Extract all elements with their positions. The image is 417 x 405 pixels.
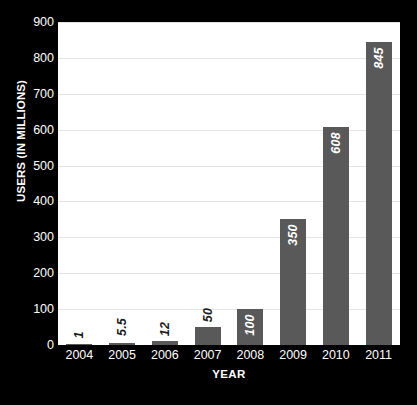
x-axis-tick-label: 2006	[144, 347, 187, 363]
x-axis-tick-label: 2004	[58, 347, 101, 363]
bar-slot: 100	[229, 22, 272, 345]
y-axis-tick-label: 300	[8, 231, 54, 243]
bar-value-label: 350	[286, 224, 300, 245]
x-axis-tick-label: 2008	[229, 347, 272, 363]
bar-slot: 845	[357, 22, 400, 345]
bar-slot: 50	[186, 22, 229, 345]
x-axis-title: YEAR	[58, 368, 400, 380]
plot-area: 15.51250100350608845	[58, 22, 400, 345]
y-axis-tick-label: 900	[8, 16, 54, 28]
x-axis-tick-label: 2007	[186, 347, 229, 363]
bar-slot: 12	[144, 22, 187, 345]
y-axis-tick-label: 100	[8, 303, 54, 315]
bar-value-label: 5.5	[115, 318, 129, 336]
bar-value-label: 1	[72, 331, 86, 338]
bars-layer: 15.51250100350608845	[58, 22, 400, 345]
x-axis-tick-label: 2010	[315, 347, 358, 363]
bar[interactable]	[109, 343, 135, 345]
x-axis-tick-label: 2005	[101, 347, 144, 363]
y-axis-tick-label: 0	[8, 339, 54, 351]
bar[interactable]	[195, 327, 221, 345]
bar-slot: 608	[315, 22, 358, 345]
bar[interactable]	[366, 42, 392, 345]
bar-value-label: 100	[243, 314, 257, 335]
bar-slot: 5.5	[101, 22, 144, 345]
bar-value-label: 50	[201, 308, 215, 322]
bar-value-label: 608	[329, 132, 343, 153]
bar-value-label: 845	[372, 47, 386, 68]
bar-value-label: 12	[158, 321, 172, 335]
bar-slot: 1	[58, 22, 101, 345]
bar-slot: 350	[272, 22, 315, 345]
y-axis-tick-labels: 9008007006005004003002001000	[6, 22, 54, 345]
bar-chart: USERS (IN MILLIONS) 90080070060050040030…	[0, 0, 417, 405]
bar[interactable]	[152, 341, 178, 345]
y-axis-tick-label: 700	[8, 88, 54, 100]
bar[interactable]	[323, 127, 349, 345]
bar[interactable]	[66, 344, 92, 346]
y-axis-tick-label: 800	[8, 52, 54, 64]
x-axis-tick-label: 2011	[357, 347, 400, 363]
x-axis-tick-label: 2009	[272, 347, 315, 363]
x-axis-tick-labels: 20042005200620072008200920102011	[58, 347, 400, 365]
y-axis-tick-label: 500	[8, 160, 54, 172]
y-axis-tick-label: 200	[8, 267, 54, 279]
y-axis-tick-label: 400	[8, 195, 54, 207]
y-axis-tick-label: 600	[8, 124, 54, 136]
